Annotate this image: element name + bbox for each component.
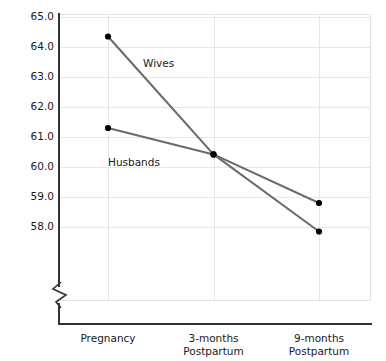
y-axis-tick-labels: 65.064.063.062.061.060.059.058.0 (16, 0, 54, 361)
gridline-horizontal (60, 227, 371, 228)
axis-break-icon (50, 282, 72, 308)
y-tick-label: 65.0 (20, 11, 54, 22)
x-tick-label-line1: 3-months (188, 332, 238, 344)
x-tick-label-line1: 9-months (294, 332, 344, 344)
y-tick-label: 63.0 (20, 71, 54, 82)
y-tick-label: 60.0 (20, 161, 54, 172)
x-axis-spine (58, 323, 372, 325)
gridline-vertical (319, 14, 320, 301)
y-tick-label: 58.0 (20, 221, 54, 232)
series-label-husbands: Husbands (108, 156, 160, 168)
plot-border (60, 14, 371, 301)
gridline-horizontal (60, 107, 371, 108)
gridline-vertical (214, 14, 215, 301)
gridline-horizontal (60, 47, 371, 48)
marital-satisfaction-line-chart: Mean Score: Marital Satisfaction 65.064.… (0, 0, 386, 361)
x-tick-label: 9-monthsPostpartum (259, 332, 379, 357)
x-tick-label-line2: Postpartum (154, 345, 274, 358)
x-tick-label-line2: Postpartum (259, 345, 379, 358)
gridline-horizontal (60, 197, 371, 198)
x-tick-label: 3-monthsPostpartum (154, 332, 274, 357)
gridline-horizontal (60, 77, 371, 78)
y-tick-label: 61.0 (20, 131, 54, 142)
series-label-wives: Wives (143, 57, 174, 69)
gridline-horizontal (60, 167, 371, 168)
x-tick-label-line1: Pregnancy (80, 332, 135, 344)
y-tick-label: 62.0 (20, 101, 54, 112)
x-tick-label: Pregnancy (48, 332, 168, 345)
y-tick-label: 59.0 (20, 191, 54, 202)
y-axis-spine (58, 13, 60, 287)
plot-area (60, 14, 371, 301)
gridline-horizontal (60, 137, 371, 138)
y-tick-label: 64.0 (20, 41, 54, 52)
gridline-horizontal (60, 17, 371, 18)
